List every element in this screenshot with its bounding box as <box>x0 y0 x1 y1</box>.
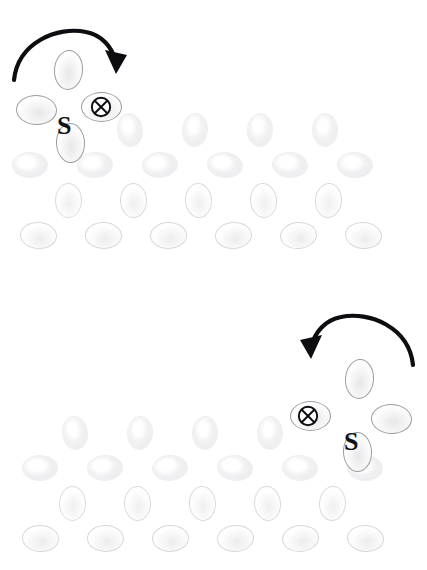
bottom-panel: S <box>0 285 427 570</box>
s-label-bottom: S <box>344 429 358 455</box>
bottom-panel-markers: S <box>0 285 427 570</box>
figure-root: S S <box>0 0 427 570</box>
into-page-vector-icon-bottom <box>297 405 319 427</box>
clockwise-rotation-arrow <box>6 22 146 92</box>
top-panel: S <box>0 0 427 285</box>
top-panel-markers: S <box>0 0 427 285</box>
counterclockwise-rotation-arrow <box>281 307 421 377</box>
into-page-vector-icon-top <box>90 96 112 118</box>
s-label-top: S <box>57 113 71 139</box>
